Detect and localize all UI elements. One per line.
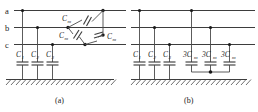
panel-caption-b: (b) — [184, 96, 194, 105]
node-dot-star-neutral — [209, 70, 213, 74]
node-dot-3cm-c — [228, 43, 231, 46]
cap-sub-c2: 2 — [154, 55, 157, 60]
mutual-branch-ab-right — [92, 11, 103, 22]
node-dot-a — [21, 9, 24, 12]
cap-sub-3cm-2: m — [213, 55, 217, 60]
cap-sub-c3: 3 — [169, 55, 172, 60]
ground-hatching-a — [6, 80, 116, 86]
circuit-svg-b: C 1 C 2 C 3 — [129, 0, 258, 112]
cap-sub-3cm-3: m — [232, 55, 236, 60]
cap-sub-c1: 1 — [139, 55, 142, 60]
cap-label-3cm-1: 3C — [182, 50, 193, 59]
panel-caption-a: (a) — [55, 96, 64, 105]
circuit-svg-a: a b c C 1 C 2 — [0, 0, 129, 112]
node-dot-b — [36, 26, 39, 29]
cap-sub-c2: 2 — [37, 55, 40, 60]
cap-sub-c1: 1 — [22, 55, 25, 60]
node-dot-c — [168, 43, 171, 46]
cap-sub-3cm-1: m — [194, 55, 198, 60]
circuit-diagram-b: C 1 C 2 C 3 — [129, 0, 258, 112]
cap-sub-c3: 3 — [52, 55, 55, 60]
node-dot-3cm-a — [190, 9, 193, 12]
node-dot-3cm-b — [209, 26, 212, 29]
mutual-cap-sub-ca: m — [113, 37, 117, 42]
node-dot-b — [153, 26, 156, 29]
circuit-diagram-a: a b c C 1 C 2 — [0, 0, 129, 112]
cap-label-3cm-3: 3C — [220, 50, 231, 59]
cap-label-3cm-2: 3C — [201, 50, 212, 59]
mutual-branch-bc-right — [80, 37, 86, 45]
node-dot-a — [138, 9, 141, 12]
node-dot-c — [51, 43, 54, 46]
phase-label-b: b — [5, 23, 9, 33]
ground-hatching-b — [131, 80, 251, 86]
mutual-cap-sub-ab: m — [68, 19, 72, 24]
mutual-branch-bc-left — [68, 28, 73, 35]
mutual-cap-sub-bc: m — [65, 36, 69, 41]
phase-label-c: c — [5, 40, 9, 50]
figure-root: a b c C 1 C 2 — [0, 0, 258, 112]
phase-label-a: a — [5, 6, 9, 16]
